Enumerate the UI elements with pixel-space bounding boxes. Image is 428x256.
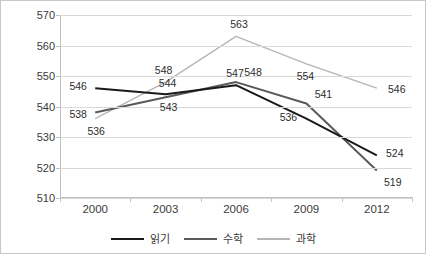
chart-figure: 510520530540550560570 546544547536524538… bbox=[0, 0, 426, 254]
legend-label: 읽기 bbox=[150, 234, 170, 245]
gridline bbox=[60, 198, 412, 199]
data-label: 548 bbox=[155, 64, 173, 76]
y-tick-label: 540 bbox=[37, 101, 55, 113]
gridline bbox=[60, 137, 412, 138]
data-label: 554 bbox=[297, 70, 315, 82]
legend-label: 수학 bbox=[223, 234, 243, 245]
y-tick-label: 520 bbox=[37, 162, 55, 174]
data-label: 544 bbox=[159, 77, 177, 89]
y-tick-mark bbox=[56, 15, 60, 16]
legend-item[interactable]: 과학 bbox=[257, 234, 316, 245]
gridline bbox=[60, 15, 412, 16]
y-tick-mark bbox=[56, 76, 60, 77]
legend-swatch bbox=[257, 238, 290, 240]
x-tick-label: 2012 bbox=[364, 203, 390, 215]
y-tick-label: 560 bbox=[37, 40, 55, 52]
y-tick-mark bbox=[56, 137, 60, 138]
legend-swatch bbox=[184, 238, 217, 240]
y-tick-label: 510 bbox=[37, 192, 55, 204]
data-label: 519 bbox=[384, 176, 402, 188]
legend-label: 과학 bbox=[296, 234, 316, 245]
y-tick-mark bbox=[56, 46, 60, 47]
x-tick-label: 2009 bbox=[294, 203, 320, 215]
data-label: 546 bbox=[388, 83, 406, 95]
data-label: 541 bbox=[315, 88, 333, 100]
y-tick-label: 570 bbox=[37, 9, 55, 21]
y-tick-label: 530 bbox=[37, 131, 55, 143]
y-tick-label: 550 bbox=[37, 70, 55, 82]
x-axis: 20002003200620092012 bbox=[60, 201, 412, 219]
data-label: 536 bbox=[280, 111, 298, 123]
x-tick-label: 2003 bbox=[153, 203, 179, 215]
data-label: 547 bbox=[226, 67, 244, 79]
chart-legend: 읽기수학과학 bbox=[1, 229, 425, 249]
x-tick-label: 2006 bbox=[223, 203, 249, 215]
data-label: 538 bbox=[69, 108, 87, 120]
legend-item[interactable]: 수학 bbox=[184, 234, 243, 245]
gridline bbox=[60, 168, 412, 169]
gridline bbox=[60, 107, 412, 108]
data-label: 524 bbox=[386, 147, 404, 159]
data-label: 546 bbox=[69, 80, 87, 92]
plot-area: 5465445475365245385435485415195365485635… bbox=[60, 15, 412, 198]
series-line bbox=[95, 85, 377, 155]
data-label: 536 bbox=[87, 125, 105, 137]
data-label: 543 bbox=[160, 101, 178, 113]
legend-swatch bbox=[111, 238, 144, 240]
x-tick-mark bbox=[412, 197, 413, 202]
data-label: 563 bbox=[230, 18, 248, 30]
data-label: 548 bbox=[244, 66, 262, 78]
series-line bbox=[95, 82, 377, 170]
y-axis: 510520530540550560570 bbox=[1, 15, 55, 198]
gridline bbox=[60, 46, 412, 47]
x-tick-label: 2000 bbox=[82, 203, 108, 215]
y-tick-mark bbox=[56, 107, 60, 108]
legend-item[interactable]: 읽기 bbox=[111, 234, 170, 245]
y-tick-mark bbox=[56, 168, 60, 169]
